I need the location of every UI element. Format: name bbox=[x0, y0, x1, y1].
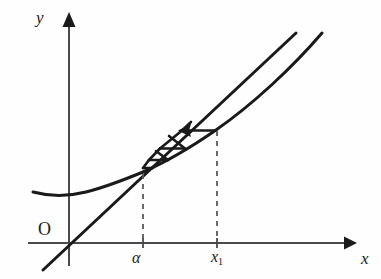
identity-line bbox=[43, 33, 296, 270]
x1-subscript: 1 bbox=[218, 256, 223, 267]
function-curve bbox=[33, 33, 322, 195]
y-axis bbox=[63, 12, 76, 266]
x-axis-label: x bbox=[361, 250, 369, 267]
cobweb-staircase bbox=[143, 122, 215, 168]
y-axis-arrowhead bbox=[63, 12, 76, 27]
math-figure: y x O α x1 bbox=[0, 0, 381, 279]
origin-label: O bbox=[38, 220, 51, 238]
x-axis-arrowhead bbox=[344, 237, 357, 250]
cobweb-segment-d2 bbox=[160, 131, 182, 149]
y-axis-label: y bbox=[36, 9, 44, 26]
x1-label: x1 bbox=[211, 249, 223, 265]
figure-canvas bbox=[0, 0, 381, 279]
alpha-label: α bbox=[132, 250, 140, 266]
